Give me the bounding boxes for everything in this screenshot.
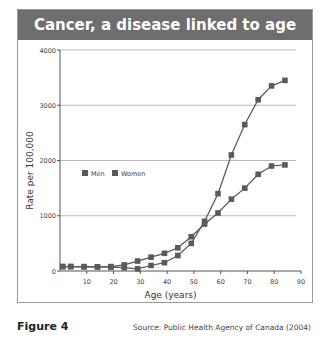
legend-label-men: Men: [91, 170, 105, 178]
x-tick-label: 70: [243, 278, 251, 286]
data-point-men: [188, 241, 194, 247]
data-point-men: [255, 97, 261, 103]
source-note: Source: Public Health Agency of Canada (…: [133, 323, 311, 332]
data-point-men: [162, 260, 168, 266]
data-point-women: [229, 196, 235, 202]
data-point-women: [282, 162, 288, 168]
y-tick-label: 3000: [39, 102, 56, 110]
data-point-women: [108, 264, 114, 270]
figure-label: Figure 4: [17, 320, 68, 333]
data-point-women: [175, 245, 181, 251]
data-point-women: [95, 264, 101, 270]
data-point-men: [242, 122, 248, 128]
x-tick-label: 80: [270, 278, 278, 286]
data-point-men: [135, 266, 141, 272]
x-tick-label: 10: [83, 278, 91, 286]
x-tick-label: 20: [109, 278, 117, 286]
data-point-men: [215, 191, 221, 197]
data-point-men: [269, 83, 275, 89]
line-chart: 01000200030004000102030405060708090Age (…: [0, 0, 326, 345]
y-tick-label: 0: [52, 268, 56, 276]
data-point-men: [229, 152, 235, 158]
y-tick-label: 1000: [39, 212, 56, 220]
data-point-women: [242, 185, 248, 191]
data-point-men: [282, 78, 288, 84]
data-point-women: [255, 172, 261, 178]
data-point-women: [162, 251, 168, 257]
y-tick-label: 2000: [39, 157, 56, 165]
legend-marker-women: [112, 170, 118, 176]
y-axis-label: Rate per 100,000: [25, 131, 35, 210]
data-point-women: [269, 163, 275, 169]
x-tick-label: 40: [163, 278, 171, 286]
data-point-women: [135, 258, 141, 264]
legend-label-women: Women: [121, 170, 145, 178]
data-point-women: [121, 262, 127, 268]
x-tick-label: 60: [217, 278, 225, 286]
y-tick-label: 4000: [39, 47, 56, 55]
data-point-women: [148, 254, 154, 260]
data-point-women: [202, 221, 208, 227]
x-tick-label: 30: [136, 278, 144, 286]
data-point-women: [81, 264, 87, 270]
data-point-women: [68, 264, 74, 270]
x-tick-label: 50: [190, 278, 198, 286]
data-point-women: [215, 210, 221, 216]
data-point-men: [175, 253, 181, 259]
data-point-women: [188, 234, 194, 240]
x-axis-label: Age (years): [144, 290, 196, 300]
legend-marker-men: [82, 170, 88, 176]
data-point-men: [148, 263, 154, 269]
data-point-women: [60, 264, 66, 270]
x-tick-label: 90: [297, 278, 305, 286]
